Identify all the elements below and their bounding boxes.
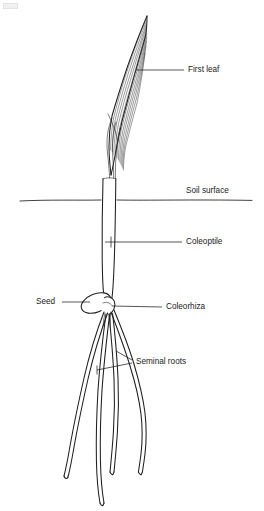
seminal-root-1 bbox=[64, 312, 108, 479]
seminal-roots-leader-upper bbox=[116, 351, 132, 360]
label-first-leaf: First leaf bbox=[188, 65, 220, 74]
first-leaf-group bbox=[107, 16, 147, 178]
label-coleoptile: Coleoptile bbox=[186, 237, 223, 246]
root-2-tip bbox=[100, 503, 104, 506]
coleorhiza-group bbox=[101, 297, 115, 315]
root-3-edge-a bbox=[109, 314, 114, 472]
label-seed: Seed bbox=[36, 297, 56, 306]
coleorhiza-leader bbox=[112, 306, 162, 307]
seminal-roots-leader-lower bbox=[97, 363, 132, 370]
label-seminal-roots: Seminal roots bbox=[136, 357, 186, 366]
root-1-tip bbox=[64, 476, 68, 479]
label-soil-surface: Soil surface bbox=[186, 186, 229, 195]
diagram-canvas: First leaf Soil surface Coleoptile Seed … bbox=[0, 0, 264, 511]
soil-surface-line bbox=[20, 200, 252, 201]
root-4-tip bbox=[138, 472, 142, 475]
text-labels: First leaf Soil surface Coleoptile Seed … bbox=[36, 65, 229, 366]
root-2-edge-b bbox=[100, 314, 109, 503]
seminal-roots-group bbox=[64, 310, 146, 506]
root-4-edge-a bbox=[111, 312, 142, 472]
root-3-tip bbox=[110, 472, 114, 475]
soil-surface-line-group bbox=[20, 200, 252, 201]
label-coleorhiza: Coleorhiza bbox=[166, 302, 206, 311]
seminal-root-2 bbox=[96, 314, 109, 506]
seedling-diagram: First leaf Soil surface Coleoptile Seed … bbox=[0, 0, 264, 511]
root-3-edge-b bbox=[113, 314, 119, 472]
seminal-root-3 bbox=[109, 314, 118, 475]
